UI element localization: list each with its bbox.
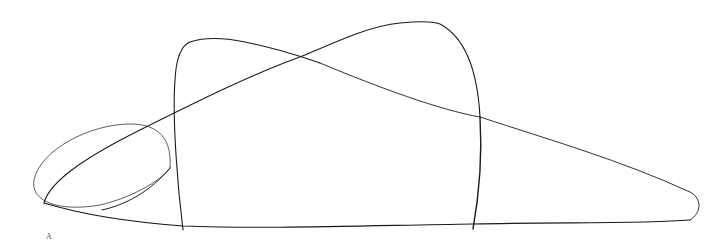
right-vertical: [473, 117, 481, 229]
descending-line: [320, 63, 699, 220]
figure-label: A: [46, 232, 52, 241]
left-arch: [174, 39, 320, 230]
line-sketch: [0, 0, 708, 249]
left-ellipse: [34, 124, 171, 207]
rising-line: [44, 22, 480, 203]
inner-tail-stroke: [102, 168, 170, 210]
bottom-baseline: [44, 203, 690, 227]
